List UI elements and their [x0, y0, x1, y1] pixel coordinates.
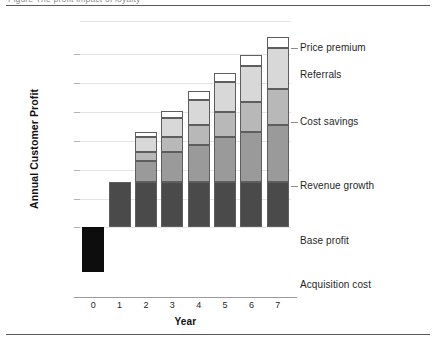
bar-segment-base-profit-year-3 [161, 182, 183, 227]
series-label-cost-savings: Cost savings [300, 116, 358, 127]
series-label-price-premium: Price premium [300, 42, 366, 53]
bar-segment-referrals-year-6 [240, 66, 262, 102]
bar-segment-price-premium-year-3 [161, 111, 183, 118]
gridline [80, 227, 291, 228]
x-axis-tick-label: 6 [240, 300, 262, 310]
bar-segment-base-profit-year-6 [240, 182, 262, 227]
y-axis-label: Annual Customer Profit [28, 69, 40, 229]
bar-segment-referrals-year-4 [188, 100, 210, 125]
y-axis-tick [74, 170, 80, 171]
x-axis-tick-label: 4 [188, 300, 210, 310]
leader-line-price-premium [291, 48, 298, 49]
y-axis-tick [74, 227, 80, 228]
x-axis-line [74, 297, 297, 298]
bar-segment-revenue-growth-year-5 [214, 137, 236, 182]
y-axis-tick [74, 83, 80, 84]
bar-segment-revenue-growth-year-7 [267, 125, 289, 182]
leader-line-cost-savings [291, 122, 298, 123]
bar-segment-cost-savings-year-4 [188, 125, 210, 145]
x-axis-label: Year [80, 316, 291, 327]
bar-segment-revenue-growth-year-6 [240, 132, 262, 182]
figure-subrule [80, 21, 291, 22]
figure-stacked-bar-chart: Figure The profit impact of loyalty Annu… [0, 0, 436, 349]
x-axis-tick-label: 0 [82, 300, 104, 310]
bar-segment-referrals-year-7 [267, 48, 289, 89]
leader-line-revenue-growth [291, 186, 298, 187]
bar-segment-base-profit-year-1 [109, 182, 131, 227]
bar-segment-cost-savings-year-6 [240, 102, 262, 132]
x-axis-tick-label: 2 [135, 300, 157, 310]
bar-segment-price-premium-year-6 [240, 55, 262, 66]
bar-segment-revenue-growth-year-2 [135, 161, 157, 182]
figure-top-rule [6, 5, 430, 6]
bar-segment-cost-savings-year-3 [161, 137, 183, 151]
bar-segment-price-premium-year-5 [214, 73, 236, 82]
x-axis-tick-label: 7 [267, 300, 289, 310]
bar-segment-cost-savings-year-5 [214, 112, 236, 137]
bar-segment-revenue-growth-year-3 [161, 152, 183, 182]
y-axis-tick [74, 112, 80, 113]
bar-acquisition-cost-year-0 [82, 227, 104, 272]
bar-segment-price-premium-year-4 [188, 91, 210, 100]
y-axis-tick [74, 54, 80, 55]
series-label-referrals: Referrals [300, 69, 341, 80]
bar-segment-referrals-year-2 [135, 137, 157, 151]
bar-segment-base-profit-year-2 [135, 182, 157, 227]
series-label-acquisition: Acquisition cost [300, 279, 371, 290]
bar-segment-cost-savings-year-2 [135, 152, 157, 161]
series-label-base-profit: Base profit [300, 235, 349, 246]
bar-segment-revenue-growth-year-4 [188, 145, 210, 183]
x-axis-tick-label: 5 [214, 300, 236, 310]
figure-bottom-rule [6, 334, 430, 335]
x-axis-tick-label: 1 [109, 300, 131, 310]
bar-segment-price-premium-year-7 [267, 37, 289, 48]
bar-segment-cost-savings-year-7 [267, 89, 289, 125]
bar-segment-base-profit-year-5 [214, 182, 236, 227]
bar-segment-referrals-year-5 [214, 82, 236, 112]
bar-segment-referrals-year-3 [161, 118, 183, 138]
y-axis-tick [74, 141, 80, 142]
x-axis-tick-label: 3 [161, 300, 183, 310]
bar-segment-base-profit-year-7 [267, 182, 289, 227]
y-axis-tick [74, 199, 80, 200]
bar-segment-base-profit-year-4 [188, 182, 210, 227]
bar-segment-price-premium-year-2 [135, 132, 157, 137]
series-label-revenue-growth: Revenue growth [300, 180, 374, 191]
